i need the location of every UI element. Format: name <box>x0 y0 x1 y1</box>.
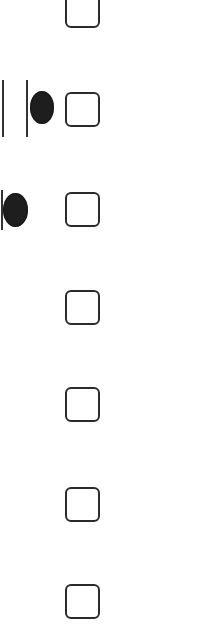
bar-icon <box>26 80 28 137</box>
checkbox-row-4[interactable] <box>65 387 100 422</box>
record-dot-icon <box>3 193 28 227</box>
record-dot-icon <box>30 91 54 124</box>
checkbox-row-5[interactable] <box>65 487 100 522</box>
checkbox-row-6[interactable] <box>65 584 100 619</box>
checkbox-row-1[interactable] <box>65 92 100 127</box>
checkbox-row-3[interactable] <box>65 290 100 325</box>
bar-icon <box>2 80 4 137</box>
checkbox-row-2[interactable] <box>65 192 100 227</box>
checkbox-row-0[interactable] <box>65 0 100 28</box>
